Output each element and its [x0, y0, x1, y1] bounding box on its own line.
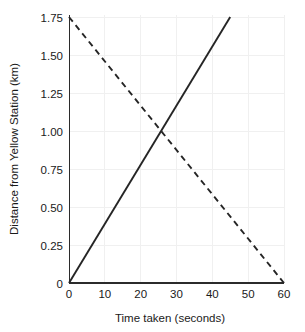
chart-figure: 1.75 1.50 1.25 1.00 0.75 0.50 0.25 0 0 1…: [0, 0, 305, 332]
x-tick-label: 60: [278, 288, 291, 300]
x-axis-title: Time taken (seconds): [115, 312, 225, 324]
x-tick-label: 50: [242, 288, 255, 300]
x-axis-tick-labels: 0 10 20 30 40 50 60: [66, 288, 291, 300]
y-tick-label: 1.00: [41, 126, 63, 138]
y-tick-label: 0.50: [41, 202, 63, 214]
y-tick-label: 1.50: [41, 50, 63, 62]
y-tick-label: 0: [57, 278, 63, 290]
y-axis-title: Distance from Yellow Station (km): [8, 63, 20, 235]
y-tick-label: 1.25: [41, 88, 63, 100]
line-chart-canvas: 1.75 1.50 1.25 1.00 0.75 0.50 0.25 0 0 1…: [0, 0, 305, 332]
x-tick-label: 10: [98, 288, 111, 300]
y-axis-tick-labels: 1.75 1.50 1.25 1.00 0.75 0.50 0.25 0: [41, 12, 63, 290]
x-tick-label: 20: [134, 288, 147, 300]
y-tick-label: 0.75: [41, 164, 63, 176]
x-tick-label: 40: [206, 288, 219, 300]
x-tick-label: 0: [66, 288, 72, 300]
y-tick-label: 0.25: [41, 240, 63, 252]
x-tick-label: 30: [170, 288, 183, 300]
y-tick-label: 1.75: [41, 12, 63, 24]
